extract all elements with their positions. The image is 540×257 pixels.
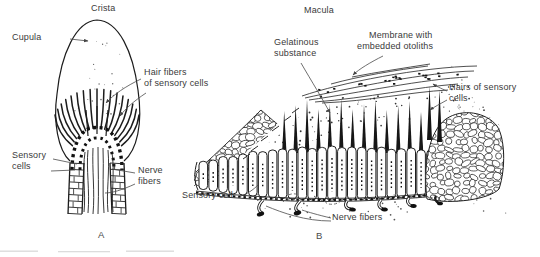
cupula-leader — [70, 39, 88, 41]
membrane-label: Membrane with embedded otoliths — [357, 30, 433, 51]
macula-title: Macula — [304, 5, 334, 16]
sensory-cells-label: Sensory cells — [12, 150, 46, 171]
nerve-fibers-a-label: Nerve fibers — [138, 165, 163, 186]
nerve-fibers-b-leader-1 — [302, 210, 331, 218]
hair-fibers-label-line1: Hair fibers — [144, 67, 208, 78]
diagram-canvas — [0, 0, 540, 257]
nerve-stalks-drawing — [68, 163, 126, 214]
gelatinous-label: Gelatinous substance — [274, 37, 319, 58]
sensory-cells-leader-2 — [51, 170, 75, 171]
panel-b-letter: B — [316, 231, 323, 242]
nerve-fibers-a-label-line2: fibers — [138, 176, 163, 187]
hairs-of-sensory-cells-label: Hairs of sensory cells — [449, 82, 516, 103]
hairs-label-line2: cells — [449, 93, 516, 104]
sensory-cells-label-line1: Sensory — [12, 150, 46, 161]
nerve-fibers-a-label-line1: Nerve — [138, 165, 163, 176]
cupula-label: Cupula — [12, 32, 41, 43]
hair-spikes-drawing — [282, 99, 423, 154]
membrane-label-line1: Membrane with — [369, 30, 433, 41]
crista-title: Crista — [91, 3, 115, 14]
gelatinous-leader — [301, 63, 330, 113]
nerve-fibers-a-drawing — [84, 147, 113, 214]
nerve-fibers-b-label: Nerve fibers — [332, 212, 382, 223]
hairs-leader-2 — [430, 100, 447, 110]
gelatinous-label-line1: Gelatinous — [274, 37, 319, 48]
crista-drawing — [55, 20, 140, 214]
supporting-cell-block — [418, 108, 512, 211]
membrane-label-line2: embedded otoliths — [357, 41, 433, 52]
sensory-cell-b-label: Sensory cell — [182, 190, 233, 201]
anatomy-figure: Crista Cupula Hair fibers of sensory cel… — [0, 0, 540, 257]
gelatinous-label-line2: substance — [274, 48, 319, 59]
hair-fibers-label-line2: of sensory cells — [144, 78, 208, 89]
hair-fibers-label: Hair fibers of sensory cells — [144, 67, 208, 88]
hair-fibers-drawing — [55, 89, 139, 146]
scan-artifact — [0, 251, 174, 253]
panel-a-letter: A — [98, 230, 105, 241]
hairs-label-line1: Hairs of sensory — [449, 82, 516, 93]
sensory-cells-label-line2: cells — [12, 161, 46, 172]
